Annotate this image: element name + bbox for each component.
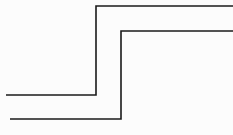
drawing-background: [0, 0, 233, 135]
figure-canvas: [0, 0, 233, 135]
step-line-drawing: [0, 0, 233, 135]
